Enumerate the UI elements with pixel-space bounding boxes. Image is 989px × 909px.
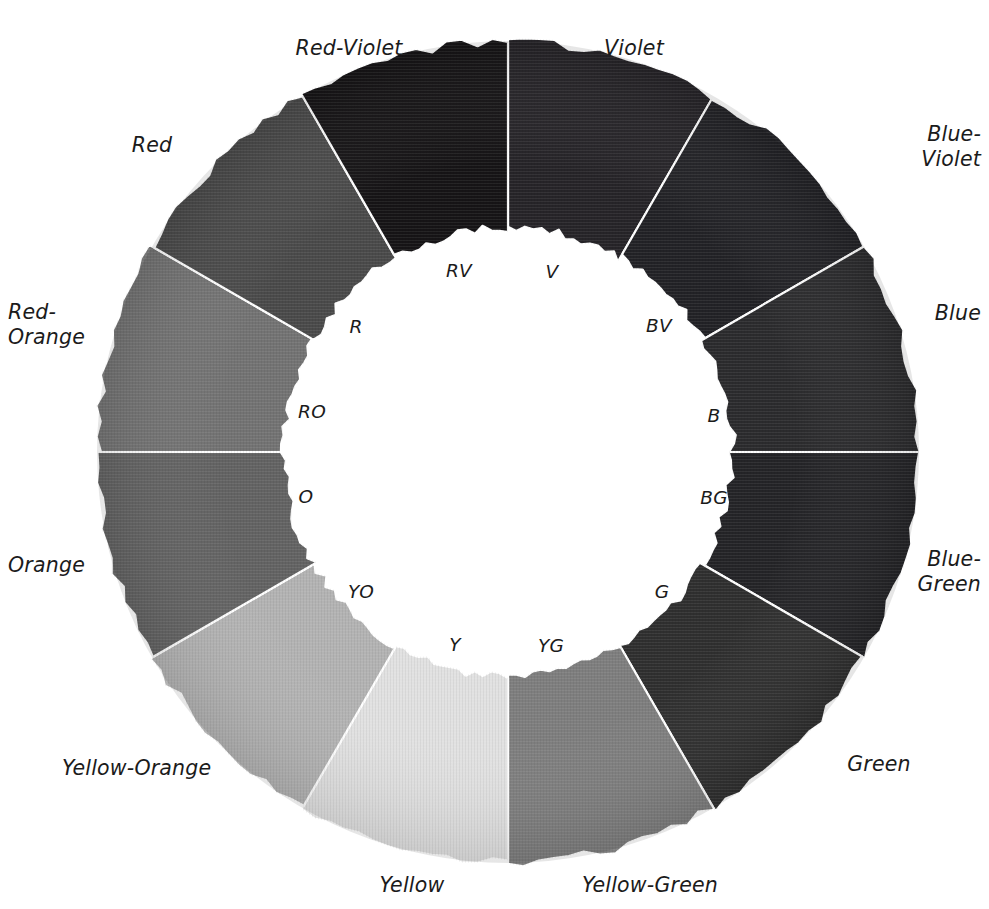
color-wheel-svg	[0, 0, 989, 909]
fabric-texture-overlay	[96, 39, 919, 867]
vignette-overlay	[97, 41, 919, 863]
color-wheel-figure: VioletBlue-VioletBlueBlue- GreenGreenYel…	[0, 0, 989, 909]
